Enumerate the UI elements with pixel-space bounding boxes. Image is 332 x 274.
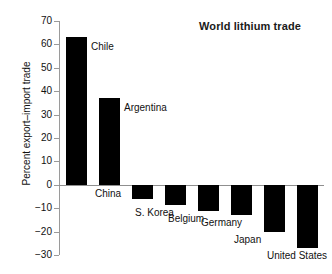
y-tick-mark xyxy=(54,255,59,256)
bar-category-label: Japan xyxy=(234,235,261,245)
bar xyxy=(132,185,153,199)
bar xyxy=(297,185,318,248)
bar xyxy=(264,185,285,232)
y-tick-mark xyxy=(54,208,59,209)
y-tick-label: 20 xyxy=(26,133,52,143)
y-tick-mark xyxy=(54,68,59,69)
y-tick-label: −20 xyxy=(26,227,52,237)
bar xyxy=(198,185,219,211)
bar-category-label: Belgium xyxy=(168,214,204,224)
bar xyxy=(165,185,186,205)
y-tick-label: −10 xyxy=(26,203,52,213)
y-tick-label: 30 xyxy=(26,110,52,120)
y-tick-mark xyxy=(54,185,59,186)
bar-category-label: Germany xyxy=(201,218,242,228)
y-tick-label: 40 xyxy=(26,86,52,96)
y-tick-label: 70 xyxy=(26,16,52,26)
y-tick-mark xyxy=(54,115,59,116)
y-tick-mark xyxy=(54,138,59,139)
y-tick-label: 50 xyxy=(26,63,52,73)
chart-container: World lithium trade Percent export–impor… xyxy=(0,0,332,274)
bar xyxy=(66,37,87,184)
bar-category-label: China xyxy=(95,189,121,199)
bar xyxy=(231,185,252,215)
bar xyxy=(99,98,120,185)
y-tick-mark xyxy=(54,44,59,45)
y-tick-label: 60 xyxy=(26,39,52,49)
y-tick-mark xyxy=(54,91,59,92)
y-axis-tick-labels: 706050403020100−10−20−30 xyxy=(24,0,52,274)
y-tick-mark xyxy=(54,21,59,22)
bar-category-label: United States xyxy=(267,251,327,261)
bar-category-label: Argentina xyxy=(124,103,167,113)
y-tick-label: 0 xyxy=(26,180,52,190)
y-tick-mark xyxy=(54,232,59,233)
y-tick-mark xyxy=(54,161,59,162)
bar-category-label: Chile xyxy=(91,42,114,52)
y-tick-label: 10 xyxy=(26,156,52,166)
y-tick-label: −30 xyxy=(26,250,52,260)
